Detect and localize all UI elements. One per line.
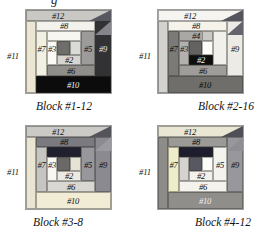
piece-p5 bbox=[213, 31, 227, 65]
block-caption: Block #2-16 bbox=[198, 100, 254, 112]
piece-p9-label: #9 bbox=[99, 45, 107, 54]
piece-p11-outside-label: #11 bbox=[139, 51, 151, 61]
piece-p3 bbox=[179, 157, 189, 181]
piece-p11-outside-label: #11 bbox=[139, 167, 151, 177]
piece-p7 bbox=[36, 31, 47, 76]
piece-p12-label: #12 bbox=[184, 127, 196, 136]
block-caption: Block #4-12 bbox=[195, 216, 251, 228]
piece-p5-label: #5 bbox=[84, 45, 92, 54]
piece-p7 bbox=[168, 31, 179, 76]
piece-p11 bbox=[158, 21, 168, 93]
piece-p3-label: #3 bbox=[48, 45, 56, 54]
piece-p8-label: #8 bbox=[192, 138, 200, 147]
piece-p8-label: #8 bbox=[60, 22, 68, 31]
piece-p6-label: #6 bbox=[67, 66, 75, 75]
piece-p12-label: #12 bbox=[52, 11, 64, 20]
piece-p3-label: #3 bbox=[48, 161, 56, 170]
piece-p9-label: #9 bbox=[231, 161, 239, 170]
piece-p4 bbox=[179, 147, 213, 157]
piece-p11 bbox=[158, 137, 168, 209]
piece-center bbox=[57, 41, 70, 55]
piece-center bbox=[189, 41, 202, 55]
piece-center bbox=[57, 157, 70, 171]
piece-p11 bbox=[26, 137, 36, 209]
piece-p2-label: #2 bbox=[65, 172, 73, 181]
piece-p7-label: #7 bbox=[169, 45, 177, 54]
block-3: #12#8#9#7#5#3#2#6#10#11Block #3-8 bbox=[0, 124, 138, 232]
piece-p8-label: #8 bbox=[192, 22, 200, 31]
cropped-title-fragment-text: g bbox=[51, 0, 58, 8]
piece-p3-label: #3 bbox=[180, 45, 188, 54]
piece-p12-label: #12 bbox=[52, 127, 64, 136]
piece-p6-label: #6 bbox=[199, 66, 207, 75]
piece-p4 bbox=[47, 31, 81, 41]
quilt-block: #12#8#9#7#4#3#2#6#10 bbox=[158, 10, 243, 93]
piece-p11-outside-label: #11 bbox=[7, 51, 19, 61]
piece-p2-label: #2 bbox=[197, 56, 205, 65]
block-4: #12#8#9#7#5#2#6#10#11Block #4-12 bbox=[132, 124, 270, 232]
piece-p10-label: #10 bbox=[199, 80, 211, 89]
block-1: #12#8#9#7#5#3#2#6#10#11Block #1-12 bbox=[0, 8, 138, 124]
block-caption: Block #1-12 bbox=[36, 100, 92, 112]
piece-center bbox=[189, 157, 202, 171]
piece-p10-label: #10 bbox=[67, 80, 79, 89]
piece-p9-label: #9 bbox=[99, 161, 107, 170]
piece-p7 bbox=[168, 147, 179, 192]
piece-p9-label: #9 bbox=[231, 45, 239, 54]
piece-p2-label: #2 bbox=[197, 172, 205, 181]
piece-p5-label: #5 bbox=[84, 161, 92, 170]
piece-p7-label: #7 bbox=[37, 45, 45, 54]
piece-p11 bbox=[26, 21, 36, 93]
piece-p6-label: #6 bbox=[67, 182, 75, 191]
quilt-block: #12#8#9#7#5#3#2#6#10 bbox=[26, 126, 111, 209]
quilt-block: #12#8#9#7#5#3#2#6#10 bbox=[26, 10, 111, 93]
piece-p7-label: #7 bbox=[169, 161, 177, 170]
piece-p10-label: #10 bbox=[67, 196, 79, 205]
piece-p7 bbox=[36, 147, 47, 192]
piece-p2-label: #2 bbox=[65, 56, 73, 65]
block-caption: Block #3-8 bbox=[33, 216, 83, 228]
piece-p4-label: #4 bbox=[192, 32, 200, 41]
piece-p11-outside-label: #11 bbox=[7, 167, 19, 177]
quilt-block: #12#8#9#7#5#2#6#10 bbox=[158, 126, 243, 209]
piece-p10-label: #10 bbox=[199, 196, 211, 205]
piece-p4 bbox=[47, 147, 81, 157]
block-2: #12#8#9#7#4#3#2#6#10#11Block #2-16 bbox=[132, 8, 270, 124]
piece-p8-label: #8 bbox=[60, 138, 68, 147]
piece-c1 bbox=[202, 157, 213, 171]
piece-p5-label: #5 bbox=[216, 161, 224, 170]
piece-c1 bbox=[70, 41, 81, 55]
piece-p7-label: #7 bbox=[37, 161, 45, 170]
piece-c1 bbox=[202, 41, 213, 55]
piece-p12-label: #12 bbox=[184, 11, 196, 20]
piece-p4end bbox=[202, 31, 213, 41]
piece-p6-label: #6 bbox=[199, 182, 207, 191]
piece-c1 bbox=[70, 157, 81, 171]
log-cabin-blocks-figure: g #12#8#9#7#5#3#2#6#10#11Block #1-12 #12… bbox=[0, 0, 270, 232]
